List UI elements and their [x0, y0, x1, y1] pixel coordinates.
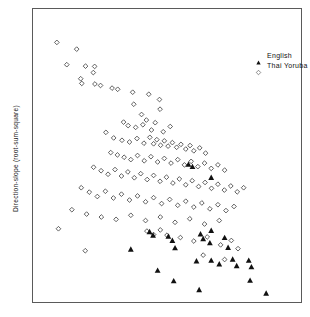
data-point-thai-yoruba — [93, 82, 98, 87]
data-point-thai-yoruba — [178, 235, 183, 240]
data-point-thai-yoruba — [202, 222, 207, 227]
data-point-thai-yoruba — [130, 90, 135, 95]
data-point-thai-yoruba — [216, 163, 221, 168]
data-point-english — [198, 231, 204, 236]
data-point-thai-yoruba — [158, 107, 163, 112]
data-point-english — [225, 245, 231, 250]
data-point-thai-yoruba — [128, 213, 133, 218]
data-point-thai-yoruba — [203, 151, 208, 156]
data-point-thai-yoruba — [144, 118, 149, 123]
data-point-thai-yoruba — [108, 150, 113, 155]
data-point-english — [208, 228, 214, 233]
data-point-english — [208, 257, 214, 262]
data-point-thai-yoruba — [122, 155, 127, 160]
data-point-thai-yoruba — [183, 199, 188, 204]
data-point-thai-yoruba — [91, 165, 96, 170]
data-point-thai-yoruba — [78, 76, 83, 81]
data-point-thai-yoruba — [175, 157, 180, 162]
data-point-thai-yoruba — [197, 146, 202, 151]
data-point-thai-yoruba — [236, 246, 241, 251]
data-point-thai-yoruba — [131, 102, 136, 107]
data-point-thai-yoruba — [151, 141, 156, 146]
data-point-english — [247, 277, 253, 282]
data-point-thai-yoruba — [171, 181, 176, 186]
data-point-thai-yoruba — [191, 239, 196, 244]
data-point-thai-yoruba — [222, 257, 227, 262]
data-point-thai-yoruba — [164, 175, 169, 180]
data-point-thai-yoruba — [126, 170, 131, 175]
data-point-thai-yoruba — [166, 144, 171, 149]
data-point-thai-yoruba — [99, 215, 104, 220]
data-point-thai-yoruba — [99, 168, 104, 173]
data-point-thai-yoruba — [149, 154, 154, 159]
data-point-thai-yoruba — [167, 197, 172, 202]
legend-label-english: English — [267, 52, 292, 59]
data-point-english — [208, 175, 214, 180]
data-point-thai-yoruba — [56, 226, 61, 231]
data-point-english — [249, 264, 255, 269]
data-point-thai-yoruba — [191, 148, 196, 153]
data-point-thai-yoruba — [119, 174, 124, 179]
data-point-thai-yoruba — [64, 62, 69, 67]
data-point-thai-yoruba — [224, 208, 229, 213]
data-point-thai-yoruba — [139, 112, 144, 117]
data-point-thai-yoruba — [119, 192, 124, 197]
data-point-thai-yoruba — [132, 175, 137, 180]
data-point-thai-yoruba — [183, 182, 188, 187]
data-point-thai-yoruba — [146, 92, 151, 97]
data-point-thai-yoruba — [174, 145, 179, 150]
filled-triangle-icon — [255, 52, 262, 59]
legend-entry-english: English — [255, 50, 292, 60]
data-point-thai-yoruba — [232, 204, 237, 209]
data-point-thai-yoruba — [114, 217, 119, 222]
data-point-thai-yoruba — [157, 97, 162, 102]
data-point-thai-yoruba — [103, 189, 108, 194]
data-point-thai-yoruba — [208, 206, 213, 211]
data-point-english — [172, 245, 178, 250]
data-point-thai-yoruba — [169, 161, 174, 166]
data-point-thai-yoruba — [222, 168, 227, 173]
data-point-thai-yoruba — [222, 188, 227, 193]
data-point-thai-yoruba — [111, 136, 116, 141]
data-point-thai-yoruba — [79, 185, 84, 190]
data-point-thai-yoruba — [162, 156, 167, 161]
data-point-english — [263, 290, 269, 295]
data-point-thai-yoruba — [199, 201, 204, 206]
data-point-thai-yoruba — [79, 81, 84, 86]
data-point-thai-yoruba — [158, 215, 163, 220]
data-point-thai-yoruba — [135, 194, 140, 199]
data-point-thai-yoruba — [127, 198, 132, 203]
data-point-thai-yoruba — [142, 158, 147, 163]
legend: English Thai Yoruba — [255, 49, 310, 73]
data-point-thai-yoruba — [190, 178, 195, 183]
data-point-thai-yoruba — [202, 161, 207, 166]
data-point-thai-yoruba — [153, 120, 158, 125]
data-point-thai-yoruba — [147, 135, 152, 140]
data-point-thai-yoruba — [203, 180, 208, 185]
data-point-thai-yoruba — [95, 194, 100, 199]
data-point-thai-yoruba — [74, 47, 79, 52]
data-point-english — [194, 258, 200, 263]
data-point-thai-yoruba — [205, 235, 210, 240]
data-point-thai-yoruba — [121, 120, 126, 125]
data-point-english — [155, 267, 161, 272]
data-point-thai-yoruba — [159, 201, 164, 206]
data-point-thai-yoruba — [151, 195, 156, 200]
data-point-thai-yoruba — [218, 243, 223, 248]
data-point-thai-yoruba — [158, 143, 163, 148]
data-point-thai-yoruba — [209, 166, 214, 171]
data-point-thai-yoruba — [158, 228, 163, 233]
data-point-thai-yoruba — [135, 136, 140, 141]
data-point-thai-yoruba — [162, 139, 167, 144]
data-point-thai-yoruba — [168, 124, 173, 129]
data-point-thai-yoruba — [175, 203, 180, 208]
data-point-thai-yoruba — [158, 179, 163, 184]
series-english — [128, 161, 269, 295]
data-point-thai-yoruba — [177, 177, 182, 182]
data-point-thai-yoruba — [173, 220, 178, 225]
data-point-thai-yoruba — [228, 184, 233, 189]
data-point-thai-yoruba — [155, 160, 160, 165]
data-point-thai-yoruba — [98, 83, 103, 88]
data-point-thai-yoruba — [142, 141, 147, 146]
data-point-thai-yoruba — [127, 140, 132, 145]
